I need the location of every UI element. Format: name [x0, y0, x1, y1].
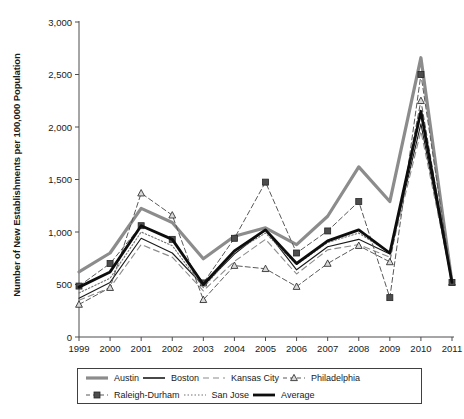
legend-item-average[interactable]: Average	[251, 386, 316, 403]
svg-text:2,000: 2,000	[48, 122, 72, 133]
legend-item-label: San Jose	[208, 390, 252, 400]
data-point-marker	[386, 258, 393, 264]
svg-text:2003: 2003	[193, 343, 214, 354]
legend-row: AustinBostonKansas CityPhiladelphia	[78, 369, 421, 386]
series-austin	[79, 58, 452, 283]
data-point-marker	[169, 212, 176, 218]
svg-text:2006: 2006	[286, 343, 307, 354]
data-point-marker	[324, 260, 331, 266]
legend-item-boston[interactable]: Boston	[141, 369, 201, 386]
legend-key-thick-black-line-icon	[251, 388, 277, 402]
svg-text:2000: 2000	[100, 343, 121, 354]
data-point-marker	[294, 250, 300, 256]
legend-item-philadelphia[interactable]: Philadelphia	[281, 369, 362, 386]
data-point-marker	[356, 199, 362, 205]
data-point-marker	[107, 261, 113, 267]
chart-legend: AustinBostonKansas CityPhiladelphiaRalei…	[77, 368, 422, 404]
svg-text:2007: 2007	[317, 343, 338, 354]
chart-figure: Number of New Establishments per 100,000…	[0, 0, 464, 419]
x-axis-ticks: 1999200020012002200320042005200620072008…	[68, 337, 462, 354]
series-philadelphia	[76, 97, 456, 307]
svg-text:2011: 2011	[442, 343, 462, 354]
data-point-marker	[76, 301, 83, 307]
svg-text:2009: 2009	[379, 343, 400, 354]
series-average	[79, 111, 452, 287]
svg-text:500: 500	[56, 279, 72, 290]
legend-key-thick-gray-line-icon	[84, 371, 110, 385]
svg-text:1,000: 1,000	[48, 227, 72, 238]
data-point-marker	[418, 97, 425, 103]
legend-item-label: Raleigh-Durham	[110, 390, 182, 400]
legend-key-thin-black-line-icon	[141, 371, 167, 385]
legend-key-dashed-triangle-marker-icon	[281, 371, 307, 385]
data-point-marker	[387, 295, 393, 301]
legend-item-austin[interactable]: Austin	[84, 369, 141, 386]
legend-item-label: Boston	[167, 373, 201, 383]
data-point-marker	[231, 235, 237, 241]
legend-key-dotted-line-icon	[182, 388, 208, 402]
data-point-marker	[107, 284, 114, 290]
data-point-marker	[325, 228, 331, 234]
line-chart-plot: 05001,0001,5002,0002,5003,00019992000200…	[0, 0, 464, 419]
legend-key-dashed-gray-line-icon	[201, 371, 227, 385]
data-point-marker	[263, 179, 269, 185]
legend-item-kansas-city[interactable]: Kansas City	[201, 369, 281, 386]
legend-key-dashed-square-marker-icon	[84, 388, 110, 402]
svg-text:2002: 2002	[162, 343, 183, 354]
svg-text:0: 0	[67, 332, 72, 343]
svg-text:2010: 2010	[410, 343, 431, 354]
data-point-marker	[418, 72, 424, 78]
svg-text:2004: 2004	[224, 343, 245, 354]
legend-item-label: Kansas City	[227, 373, 281, 383]
legend-item-label: Philadelphia	[307, 373, 362, 383]
svg-text:2005: 2005	[255, 343, 276, 354]
legend-item-label: Average	[277, 390, 316, 400]
svg-text:1999: 1999	[68, 343, 89, 354]
legend-item-san-jose[interactable]: San Jose	[182, 386, 252, 403]
legend-item-raleigh-durham[interactable]: Raleigh-Durham	[84, 386, 182, 403]
svg-text:1,500: 1,500	[48, 174, 72, 185]
svg-text:2008: 2008	[348, 343, 369, 354]
svg-text:3,000: 3,000	[48, 17, 72, 28]
y-axis-ticks: 05001,0001,5002,0002,5003,000	[48, 17, 79, 343]
svg-text:2,500: 2,500	[48, 69, 72, 80]
data-point-marker	[293, 283, 300, 289]
svg-text:2001: 2001	[131, 343, 152, 354]
data-point-marker	[138, 190, 145, 196]
legend-item-label: Austin	[110, 373, 141, 383]
legend-row: Raleigh-DurhamSan JoseAverage	[78, 386, 421, 403]
